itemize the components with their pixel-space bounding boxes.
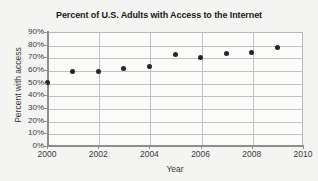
chart-title: Percent of U.S. Adults with Access to th…	[0, 10, 318, 20]
x-tick-label: 2006	[181, 149, 221, 159]
x-tick-mark	[201, 146, 202, 149]
gridline-horizontal	[48, 134, 302, 135]
x-tick-mark	[47, 146, 48, 149]
gridline-horizontal	[48, 58, 302, 59]
y-tick-mark	[44, 57, 47, 58]
x-tick-mark	[149, 146, 150, 149]
y-tick-mark	[44, 108, 47, 109]
y-axis-line	[47, 31, 49, 147]
gridline-horizontal	[48, 71, 302, 72]
gridline-vertical	[99, 33, 100, 145]
gridline-horizontal	[48, 122, 302, 123]
x-tick-mark	[303, 146, 304, 149]
x-tick-label: 2002	[78, 149, 118, 159]
x-tick-label: 2000	[27, 149, 67, 159]
x-tick-mark	[98, 146, 99, 149]
y-tick-mark	[44, 95, 47, 96]
y-tick-mark	[44, 32, 47, 33]
gridline-vertical	[150, 33, 151, 145]
plot-area	[47, 32, 303, 146]
y-tick-mark	[44, 45, 47, 46]
x-axis-line	[47, 145, 304, 147]
x-tick-label: 2010	[283, 149, 318, 159]
x-tick-label: 2008	[232, 149, 272, 159]
gridline-horizontal	[48, 46, 302, 47]
y-tick-mark	[44, 70, 47, 71]
y-axis-title: Percent with access	[13, 35, 23, 135]
y-tick-mark	[44, 83, 47, 84]
x-axis-title: Year	[47, 164, 303, 174]
gridline-horizontal	[48, 96, 302, 97]
chart-page: Percent of U.S. Adults with Access to th…	[0, 0, 318, 181]
x-tick-mark	[252, 146, 253, 149]
gridline-horizontal	[48, 84, 302, 85]
y-tick-mark	[44, 121, 47, 122]
gridline-vertical	[202, 33, 203, 145]
x-tick-label: 2004	[129, 149, 169, 159]
gridline-vertical	[253, 33, 254, 145]
y-tick-mark	[44, 133, 47, 134]
gridline-horizontal	[48, 109, 302, 110]
